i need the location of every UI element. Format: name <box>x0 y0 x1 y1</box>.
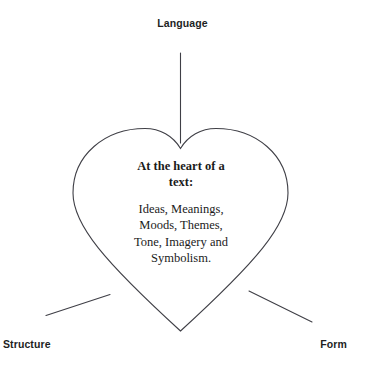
heart-body-line: Moods, Themes, <box>102 217 260 233</box>
heart-concept-diagram: Language Structure Form At the heart of … <box>0 0 365 368</box>
heart-heading-line-2: text: <box>169 175 193 189</box>
heart-body: Ideas, Meanings, Moods, Themes, Tone, Im… <box>102 201 260 266</box>
heart-body-line: Symbolism. <box>102 250 260 266</box>
heart-heading-line-1: At the heart of a <box>137 159 224 173</box>
node-label-structure: Structure <box>3 339 51 351</box>
heart-heading: At the heart of a text: <box>102 158 260 190</box>
connector-form-line <box>249 291 312 322</box>
heart-body-line: Tone, Imagery and <box>102 234 260 250</box>
node-label-language: Language <box>0 18 365 30</box>
connector-structure-line <box>46 295 110 316</box>
heart-center-text: At the heart of a text: Ideas, Meanings,… <box>102 158 260 266</box>
node-label-form: Form <box>320 339 347 351</box>
heart-body-line: Ideas, Meanings, <box>102 201 260 217</box>
